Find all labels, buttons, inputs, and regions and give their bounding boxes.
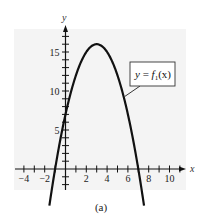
x-tick-label: −2 xyxy=(39,173,50,184)
x-tick-label: 4 xyxy=(105,173,110,184)
x-tick-label: −4 xyxy=(19,173,30,184)
y-axis-label: y xyxy=(61,12,67,23)
chart-figure: −4−224681051015 y = f1(x) x y xyxy=(0,0,202,217)
y-tick-label: 10 xyxy=(50,86,60,97)
callout-label: y = f1(x) xyxy=(134,68,171,82)
y-tick-label: 5 xyxy=(55,125,60,136)
x-axis-label: x xyxy=(189,163,195,174)
y-axis-arrow-icon xyxy=(63,25,68,32)
x-tick-label: 6 xyxy=(125,173,130,184)
y-tick-label: 15 xyxy=(50,47,60,58)
x-tick-label: 8 xyxy=(146,173,151,184)
x-tick-label: 10 xyxy=(165,173,175,184)
plot-panel xyxy=(14,29,186,190)
x-tick-label: 2 xyxy=(84,173,89,184)
figure-caption: (a) xyxy=(0,201,202,213)
